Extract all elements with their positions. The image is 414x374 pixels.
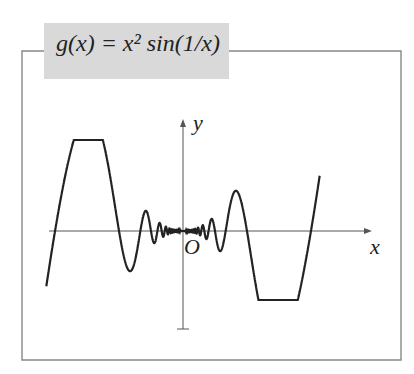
origin-label: O	[184, 234, 200, 260]
x-axis-label: x	[370, 234, 380, 260]
y-axis-label: y	[193, 110, 203, 136]
frame	[22, 51, 401, 360]
chart-title: g(x) = x² sin(1/x)	[56, 30, 220, 57]
y-axis-arrow-icon	[180, 119, 186, 127]
